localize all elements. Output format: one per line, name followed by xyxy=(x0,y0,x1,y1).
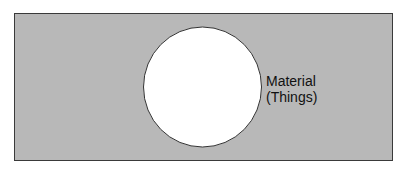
material-label-line2: (Things) xyxy=(266,89,317,105)
material-label-line1: Material xyxy=(266,73,317,89)
material-circle xyxy=(144,27,262,147)
material-label: Material (Things) xyxy=(266,73,317,105)
diagram-canvas xyxy=(0,0,404,170)
